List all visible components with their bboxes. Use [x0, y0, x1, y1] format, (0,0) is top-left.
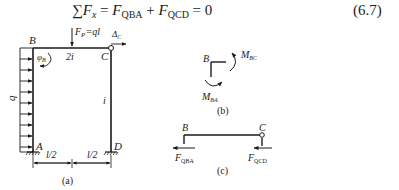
beam-b-label: B — [182, 122, 188, 133]
moment-bc-label: MBC — [240, 49, 258, 61]
node-b-label: B — [29, 34, 36, 46]
hinge-c-icon — [260, 133, 265, 138]
caption-a: (a) — [62, 175, 73, 187]
node-c-label: C — [101, 50, 109, 62]
moment-ba-label: MBA — [201, 91, 218, 103]
hinge-c-icon — [109, 46, 114, 51]
force-qba-label: FQBA — [174, 152, 194, 164]
frame-diagram-a: q FP=ql ΔC B C A D 2i i φB l/2 l/2 (a) — [5, 26, 126, 187]
caption-b: (b) — [217, 105, 229, 117]
beam-c-label: C — [259, 122, 266, 133]
dimension-line — [33, 150, 111, 168]
force-qcd-label: FQCD — [247, 152, 267, 164]
distributed-load-icon — [20, 48, 33, 152]
moment-ba-arrow-icon — [205, 80, 222, 86]
beam-free-body-c: B C FQBA FQCD (c) — [173, 122, 272, 177]
joint-b-label: B — [203, 53, 209, 64]
beam-stiffness-label: 2i — [66, 51, 74, 62]
structural-figures: q FP=ql ΔC B C A D 2i i φB l/2 l/2 (a) — [0, 0, 399, 190]
displacement-label: ΔC — [111, 29, 122, 40]
joint-diagram-b: B MBC MBA (b) — [201, 49, 258, 117]
moment-bc-arrow-icon — [230, 53, 236, 71]
fixed-support-d-icon — [104, 152, 118, 155]
dim-left-label: l/2 — [46, 149, 57, 160]
node-d-label: D — [113, 140, 122, 152]
column-stiffness-label: i — [103, 95, 106, 106]
load-q-label: q — [5, 95, 17, 101]
node-a-label: A — [35, 140, 43, 152]
caption-c: (c) — [217, 165, 228, 177]
dim-right-label: l/2 — [87, 149, 98, 160]
point-load-label: FP=ql — [74, 26, 100, 39]
rotation-label: φB — [37, 52, 46, 63]
